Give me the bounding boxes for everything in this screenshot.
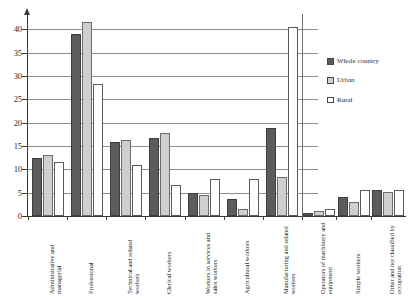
bar — [266, 128, 276, 216]
y-axis-tick-label: 35 — [14, 48, 22, 57]
bar-group — [67, 20, 106, 216]
bar-group — [263, 20, 302, 216]
y-axis-tick-mark — [22, 146, 27, 147]
y-axis-tick-mark — [22, 123, 27, 124]
urban-swatch — [327, 77, 334, 84]
y-axis-tick-label: 40 — [14, 25, 22, 34]
y-axis-tick-label: 30 — [14, 72, 22, 81]
bar-group — [336, 20, 370, 216]
x-axis-category-label: Agricultural workers — [243, 222, 250, 294]
x-label-cell: Agricultural workers — [224, 220, 263, 296]
x-label-cell: Administrative and managerial — [28, 220, 67, 296]
bar — [360, 190, 370, 216]
x-axis-category-labels: Administrative and managerialProfessiona… — [28, 220, 405, 296]
legend-item[interactable]: Rural — [327, 96, 407, 104]
bar-group — [145, 20, 184, 216]
legend-item[interactable]: Whole country — [327, 57, 407, 65]
legend-item-label: Urban — [337, 76, 393, 84]
y-axis-tick-label: 25 — [14, 95, 22, 104]
x-axis-category-label: Workers in services and sales workers — [204, 222, 219, 294]
x-axis-category-label: Professional — [87, 222, 94, 294]
y-axis-tick-mark — [22, 169, 27, 170]
bar — [160, 133, 170, 216]
y-axis-tick-mark — [22, 99, 27, 100]
bar — [277, 177, 287, 216]
y-axis-tick-mark — [22, 76, 27, 77]
x-axis-category-label: Clerical workers — [165, 222, 172, 294]
rural-swatch — [327, 97, 334, 104]
y-axis-tick-labels: 0510152025303540 — [0, 0, 22, 296]
bar-groups — [28, 20, 405, 216]
bar — [54, 162, 64, 216]
bar — [71, 34, 81, 216]
y-axis-tick-mark — [22, 29, 27, 30]
legend-item-label: Rural — [337, 96, 393, 104]
x-label-cell: Professional — [67, 220, 106, 296]
x-axis-category-label: Operators of machinery and equipment — [319, 222, 334, 294]
bar — [199, 195, 209, 216]
whole-country-swatch — [327, 58, 334, 65]
y-axis-tick-mark — [22, 216, 27, 217]
chart-legend: Whole countryUrbanRural — [327, 57, 407, 115]
bar — [372, 190, 382, 216]
plot-divider-line — [302, 14, 303, 217]
bar-group — [106, 20, 145, 216]
x-label-cell: Clerical workers — [145, 220, 184, 296]
bar — [227, 199, 237, 216]
bar — [383, 192, 393, 216]
bar — [132, 165, 142, 216]
bar — [110, 142, 120, 216]
legend-item-label: Whole country — [337, 57, 393, 65]
bar — [338, 197, 348, 216]
x-axis-category-label: Technical and related workers — [126, 222, 141, 294]
bar-group — [302, 20, 336, 216]
bar-group — [224, 20, 263, 216]
bar — [188, 193, 198, 216]
y-axis-tick-mark — [22, 53, 27, 54]
bar — [288, 27, 298, 216]
bar-group — [28, 20, 67, 216]
bar — [149, 138, 159, 216]
x-label-cell: Technical and related workers — [106, 220, 145, 296]
bar-group — [371, 20, 405, 216]
x-label-cell: Manufacturing and related workers — [263, 220, 302, 296]
bar — [210, 179, 220, 216]
x-axis-category-label: Manufacturing and related workers — [282, 222, 297, 294]
bar — [349, 202, 359, 216]
y-axis-tick-label: 10 — [14, 165, 22, 174]
x-label-cell: Workers in services and sales workers — [185, 220, 224, 296]
bar-chart: 0510152025303540 Administrative and mana… — [0, 0, 410, 296]
bar — [394, 190, 404, 216]
bar-group — [185, 20, 224, 216]
bar — [249, 179, 259, 216]
x-axis-category-label: Administrative and managerial — [48, 222, 63, 294]
bar — [121, 140, 131, 216]
bar — [43, 155, 53, 216]
x-axis-category-label: Simple workers — [354, 222, 361, 294]
chart-top-margin — [0, 0, 410, 3]
x-label-cell: Simple workers — [336, 220, 370, 296]
bar — [32, 158, 42, 216]
legend-item[interactable]: Urban — [327, 76, 407, 84]
x-axis-category-label: Other and not classified by occupation — [388, 222, 403, 294]
x-label-cell: Operators of machinery and equipment — [302, 220, 336, 296]
bar — [82, 22, 92, 216]
y-axis-tick-label: 15 — [14, 142, 22, 151]
bar — [171, 185, 181, 216]
y-axis-tick-mark — [22, 193, 27, 194]
y-axis-line — [27, 14, 28, 217]
x-label-cell: Other and not classified by occupation — [371, 220, 405, 296]
bar — [93, 84, 103, 216]
x-axis-line — [27, 216, 406, 217]
y-axis-tick-label: 20 — [14, 118, 22, 127]
